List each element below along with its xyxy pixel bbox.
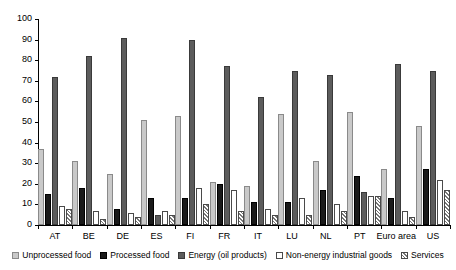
bar <box>265 209 271 225</box>
bar <box>224 66 230 225</box>
x-axis-tick-label: ES <box>140 230 174 244</box>
bar <box>299 198 305 225</box>
y-axis-tick-label: 20 <box>0 179 32 188</box>
bar-group <box>210 19 244 225</box>
x-axis-tick-mark <box>210 225 211 229</box>
bar-chart: 0102030405060708090100 ATBEDEESFIFRITLUN… <box>0 0 456 270</box>
bar <box>306 215 312 225</box>
x-axis-tick-mark <box>72 225 73 229</box>
bar <box>121 38 127 225</box>
bar <box>368 196 374 225</box>
legend-swatch-icon <box>178 252 185 259</box>
legend-item: Processed food <box>100 250 169 260</box>
legend-item: Unprocessed food <box>12 250 91 260</box>
bar <box>107 174 113 226</box>
x-axis-tick-mark <box>175 225 176 229</box>
bar-group <box>381 19 415 225</box>
bar <box>258 97 264 225</box>
bar <box>162 211 168 225</box>
legend-item: Services <box>401 250 444 260</box>
bar <box>128 213 134 225</box>
bar <box>430 71 436 226</box>
legend-swatch-icon <box>401 252 408 259</box>
legend-item: Energy (oil products) <box>178 250 266 260</box>
bar <box>86 56 92 225</box>
bar <box>169 215 175 225</box>
legend-swatch-icon <box>100 252 107 259</box>
y-axis-tick-label: 40 <box>0 138 32 147</box>
bar <box>100 219 106 225</box>
bar <box>141 120 147 225</box>
bar <box>66 209 72 225</box>
bar <box>278 114 284 225</box>
plot-area <box>38 19 450 225</box>
bar <box>402 211 408 225</box>
bar <box>72 161 78 225</box>
bar <box>217 184 223 225</box>
bar <box>361 192 367 225</box>
bar <box>210 182 216 225</box>
bar <box>203 204 209 225</box>
bar <box>381 169 387 225</box>
bar <box>444 190 450 225</box>
x-axis-tick-label: FI <box>173 230 207 244</box>
bar-group <box>107 19 141 225</box>
x-axis-tick-label: PT <box>343 230 377 244</box>
bar <box>45 194 51 225</box>
x-axis-tick-label: BE <box>72 230 106 244</box>
y-axis-tick-label: 70 <box>0 76 32 85</box>
x-axis-tick-mark <box>244 225 245 229</box>
bar <box>285 202 291 225</box>
x-axis-tick-label: DE <box>106 230 140 244</box>
x-axis-tick-label: FR <box>207 230 241 244</box>
x-axis-tick-mark <box>416 225 417 229</box>
y-axis-tick-label: 50 <box>0 117 32 126</box>
x-axis-tick-label: NL <box>309 230 343 244</box>
bar-group <box>175 19 209 225</box>
x-axis-tick-mark <box>141 225 142 229</box>
bar <box>231 190 237 225</box>
bar <box>409 217 415 225</box>
chart-legend: Unprocessed foodProcessed foodEnergy (oi… <box>0 250 456 260</box>
bar <box>341 211 347 225</box>
y-axis-tick-label: 10 <box>0 199 32 208</box>
bar <box>292 71 298 226</box>
bar <box>93 211 99 225</box>
bar <box>244 186 250 225</box>
legend-label: Services <box>411 250 444 260</box>
legend-label: Energy (oil products) <box>188 250 266 260</box>
x-axis-tick-mark <box>381 225 382 229</box>
bar <box>114 209 120 225</box>
x-axis-tick-label: AT <box>38 230 72 244</box>
bar <box>388 198 394 225</box>
bar <box>79 188 85 225</box>
bar-groups <box>38 19 450 225</box>
x-axis-tick-mark <box>313 225 314 229</box>
bar-group <box>141 19 175 225</box>
bar-group <box>38 19 72 225</box>
x-axis-tick-label: US <box>416 230 450 244</box>
bar <box>251 202 257 225</box>
y-axis-tick-label: 80 <box>0 55 32 64</box>
bar <box>148 198 154 225</box>
bar <box>395 64 401 225</box>
bar <box>347 112 353 225</box>
bar <box>155 215 161 225</box>
bar-group <box>347 19 381 225</box>
bar <box>416 126 422 225</box>
bar <box>189 40 195 225</box>
x-axis-tick-mark <box>38 225 39 229</box>
bar-group <box>72 19 106 225</box>
x-axis-tick-label: Euro area <box>377 230 417 244</box>
legend-swatch-icon <box>276 252 283 259</box>
y-axis-tick-label: 30 <box>0 158 32 167</box>
bar <box>196 188 202 225</box>
bar-group <box>416 19 450 225</box>
x-axis-tick-mark <box>107 225 108 229</box>
legend-swatch-icon <box>12 252 19 259</box>
bar <box>334 204 340 225</box>
y-axis-tick-label: 60 <box>0 96 32 105</box>
bar <box>59 206 65 225</box>
x-axis-tick-mark <box>278 225 279 229</box>
bar <box>175 116 181 225</box>
